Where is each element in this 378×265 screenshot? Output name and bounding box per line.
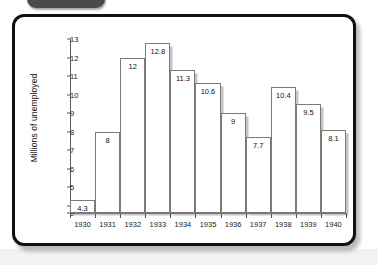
x-axis-tick-label: 1940 [325,220,342,229]
x-axis-tick-mark [296,214,297,218]
bar-value-label: 7.7 [253,141,263,150]
x-axis-tick-mark [70,214,71,218]
y-axis-tick-mark [67,187,71,188]
x-axis-tick-label: 1933 [149,220,166,229]
bar-value-label: 11.3 [176,74,190,83]
bar[interactable] [170,70,195,213]
bar-value-label: 9.5 [303,108,313,117]
y-axis-tick-mark [67,150,71,151]
bar[interactable] [296,104,321,213]
x-axis-tick-mark [95,214,96,218]
window-tab[interactable] [27,0,105,8]
bar-value-label: 9 [231,117,235,126]
x-axis-tick-label: 1930 [74,220,91,229]
bar[interactable] [195,83,220,213]
y-axis-tick-mark [67,39,71,40]
bar-value-label: 10.4 [276,91,291,100]
y-axis-tick-mark [67,94,71,95]
x-axis-tick-mark [321,214,322,218]
y-axis-tick-mark [67,131,71,132]
x-axis-tick-mark [170,214,171,218]
x-axis-tick-mark [120,214,121,218]
y-axis-tick-mark [67,168,71,169]
x-axis-tick-mark [221,214,222,218]
x-axis-tick-mark [346,214,347,218]
chart-plot-area: Millions of unemployed 0456789101112134.… [15,17,359,249]
y-axis-tick-mark [67,113,71,114]
x-axis-tick-label: 1937 [250,220,267,229]
x-axis-line [70,213,347,214]
x-axis-tick-label: 1932 [124,220,141,229]
x-axis-tick-mark [246,214,247,218]
bar-value-label: 10.6 [201,87,216,96]
y-axis-title: Millions of unemployed [29,43,39,193]
y-axis-tick-mark [67,57,71,58]
y-axis-tick-mark [67,76,71,77]
x-axis-tick-mark [271,214,272,218]
x-axis-tick-label: 1939 [300,220,317,229]
bar[interactable] [145,43,170,213]
chart-card: Millions of unemployed 0456789101112134.… [12,14,356,246]
bar[interactable] [221,113,246,213]
bar-value-label: 8.1 [328,134,338,143]
x-axis-tick-label: 1936 [225,220,242,229]
x-axis-tick-mark [195,214,196,218]
bar-value-label: 12 [129,62,137,71]
bar-value-label: 4.3 [77,204,87,213]
x-axis-tick-mark [145,214,146,218]
x-axis-tick-label: 1931 [99,220,116,229]
bar[interactable] [120,58,145,213]
bar[interactable] [271,87,296,213]
x-axis-tick-label: 1935 [200,220,217,229]
bar-value-label: 12.8 [151,47,166,56]
x-axis-tick-label: 1938 [275,220,292,229]
bar-value-label: 8 [106,136,110,145]
x-axis-tick-label: 1934 [175,220,192,229]
